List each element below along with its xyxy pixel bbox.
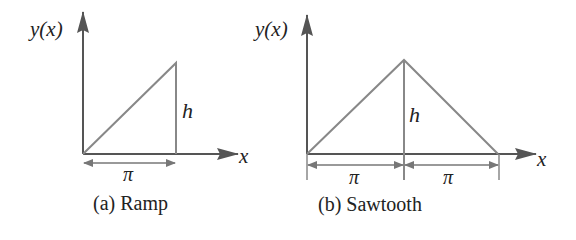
ramp-panel: y(x) x h π (a) Ramp bbox=[28, 12, 249, 215]
sawtooth-panel: y(x) x h π π (b) Sawtooth bbox=[253, 15, 547, 216]
ramp-height-label: h bbox=[182, 98, 193, 123]
ramp-caption: (a) Ramp bbox=[93, 192, 168, 215]
ramp-width-label: π bbox=[123, 163, 134, 185]
sawtooth-waveform bbox=[307, 60, 498, 154]
waveform-diagram: y(x) x h π (a) Ramp y(x) x h π π (b) Saw… bbox=[0, 0, 576, 240]
sawtooth-height-label: h bbox=[409, 102, 420, 127]
sawtooth-right-width-label: π bbox=[443, 166, 454, 188]
sawtooth-y-axis-label: y(x) bbox=[253, 17, 288, 41]
sawtooth-x-axis-label: x bbox=[536, 147, 547, 171]
ramp-x-axis-label: x bbox=[238, 144, 249, 168]
ramp-waveform bbox=[83, 63, 176, 154]
sawtooth-caption: (b) Sawtooth bbox=[318, 193, 422, 216]
sawtooth-left-width-label: π bbox=[349, 166, 360, 188]
ramp-y-axis-label: y(x) bbox=[28, 17, 63, 41]
